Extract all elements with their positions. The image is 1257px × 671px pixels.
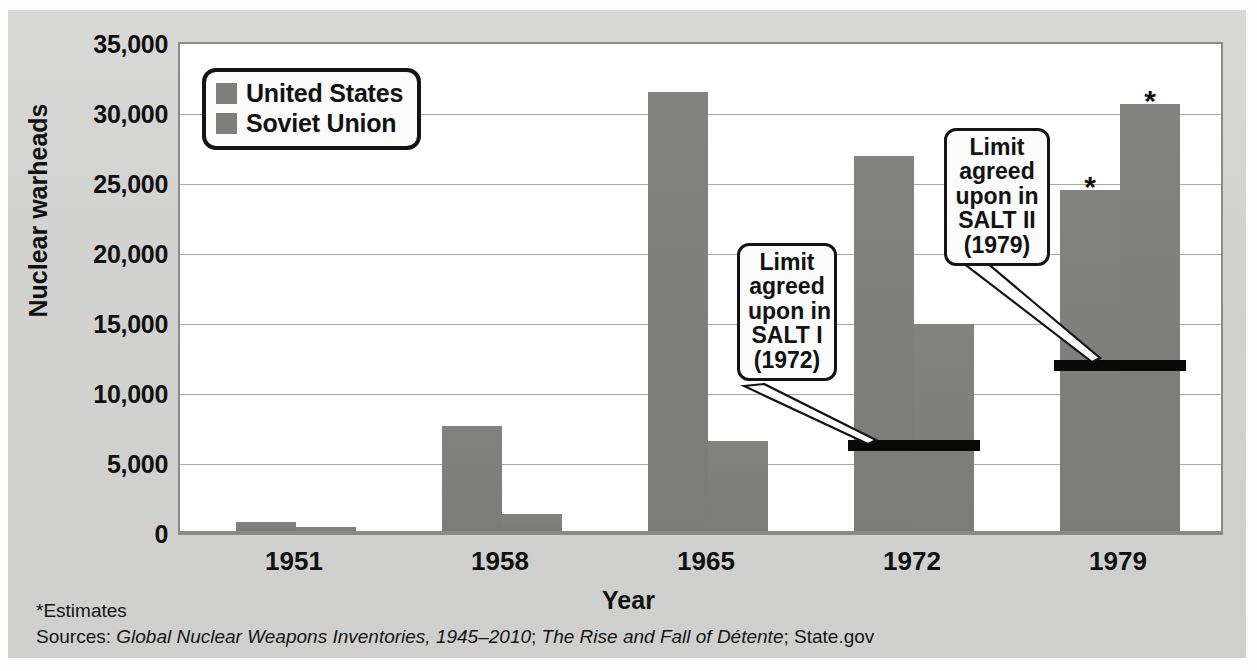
callout-salt-2-line-2: agreed [955, 159, 1039, 183]
chart-figure: 35,000 30,000 25,000 20,000 15,000 10,00… [0, 0, 1257, 671]
estimate-marker-soviet-union-1979: * [1130, 86, 1170, 116]
x-tick-1965: 1965 [606, 546, 806, 577]
bar-united-states-1972 [854, 156, 914, 531]
bar-soviet-union-1972 [914, 324, 974, 531]
callout-salt-2-line-4: SALT II [955, 208, 1039, 232]
bar-soviet-union-1979 [1120, 104, 1180, 531]
source-title-3: State.gov [794, 626, 874, 647]
salt-1-limit-line [848, 440, 980, 451]
sources-separator-2: ; [783, 626, 794, 647]
legend-item-soviet-union: Soviet Union [216, 108, 403, 138]
salt-2-limit-line [1054, 360, 1186, 371]
chart-legend: United States Soviet Union [202, 68, 421, 150]
source-title-1: Global Nuclear Weapons Inventories, 1945… [116, 626, 531, 647]
y-axis-title: Nuclear warheads [24, 51, 53, 371]
bar-united-states-1951 [236, 522, 296, 531]
gridline-0 [180, 531, 1221, 533]
callout-salt-1-line-3: upon in [748, 299, 826, 323]
legend-swatch-soviet-union [216, 113, 237, 134]
sources-separator-1: ; [531, 626, 542, 647]
y-tick-0: 0 [28, 520, 168, 549]
y-tick-5000: 5,000 [28, 450, 168, 479]
legend-item-united-states: United States [216, 78, 403, 108]
bar-united-states-1965 [648, 92, 708, 531]
x-tick-1979: 1979 [1018, 546, 1218, 577]
bar-united-states-1958 [442, 426, 502, 531]
callout-salt-1-line-4: SALT I [748, 323, 826, 347]
callout-salt-2-line-1: Limit [955, 135, 1039, 159]
callout-salt-2-line-3: upon in [955, 184, 1039, 208]
x-tick-1958: 1958 [400, 546, 600, 577]
callout-salt-1: Limit agreed upon in SALT I (1972) [737, 243, 837, 381]
callout-salt-2-line-5: (1979) [955, 233, 1039, 257]
sources-prefix: Sources: [36, 626, 116, 647]
callout-salt-1-line-1: Limit [748, 250, 826, 274]
y-tick-10000: 10,000 [28, 380, 168, 409]
bar-soviet-union-1951 [296, 527, 356, 531]
callout-salt-1-line-2: agreed [748, 274, 826, 298]
bar-soviet-union-1965 [708, 441, 768, 531]
x-tick-1951: 1951 [194, 546, 394, 577]
source-title-2: The Rise and Fall of Détente [542, 626, 784, 647]
x-axis-title: Year [0, 586, 1257, 615]
x-tick-1972: 1972 [812, 546, 1012, 577]
footnote-estimates: *Estimates [36, 600, 127, 622]
legend-label-united-states: United States [246, 79, 403, 108]
legend-swatch-united-states [216, 83, 237, 104]
callout-salt-1-line-5: (1972) [748, 348, 826, 372]
estimate-marker-united-states-1979: * [1070, 172, 1110, 202]
bar-soviet-union-1958 [502, 514, 562, 531]
footnote-sources: Sources: Global Nuclear Weapons Inventor… [36, 626, 874, 648]
legend-label-soviet-union: Soviet Union [246, 109, 396, 138]
callout-salt-2: Limit agreed upon in SALT II (1979) [944, 128, 1050, 266]
